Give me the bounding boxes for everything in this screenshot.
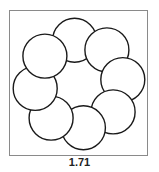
circle-ring [13,18,145,150]
figure-caption: 1.71 [0,156,159,168]
ring-circle [23,34,67,78]
circle-ring-figure [0,0,159,172]
